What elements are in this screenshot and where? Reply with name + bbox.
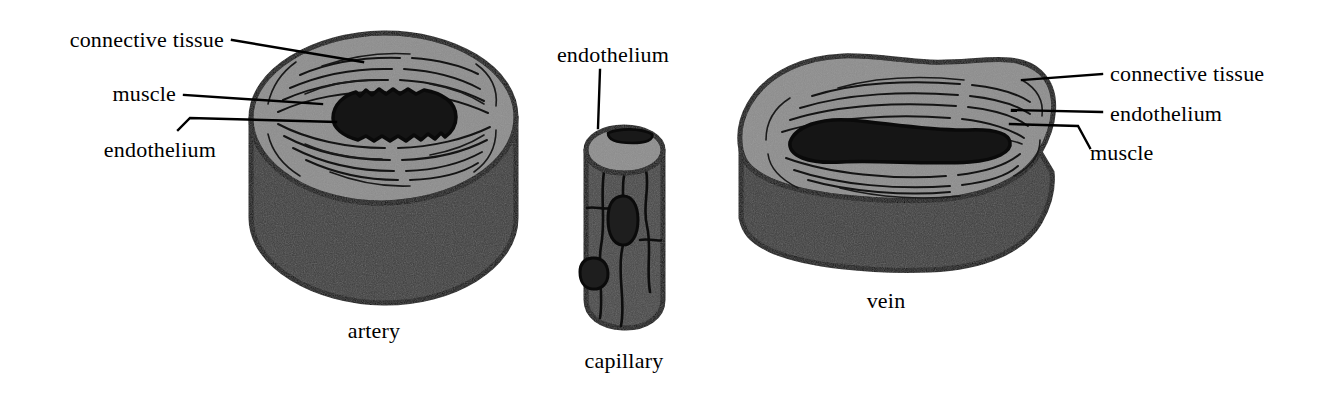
capillary-rim-nucleus [608,129,652,143]
capillary-figure: capillary [580,127,663,373]
vein-muscle-label: muscle [1090,140,1154,165]
artery-connective-tissue-label: connective tissue [70,27,224,52]
artery-muscle-label: muscle [112,81,176,106]
vein-connective-tissue-label: connective tissue [1110,61,1264,86]
artery-endothelium-label: endothelium [104,137,216,162]
artery-figure: artery [251,33,516,343]
vein-figure: vein [740,56,1054,313]
capillary-endothelium-leader [598,70,600,128]
artery-caption: artery [348,318,401,343]
capillary-caption: capillary [585,348,664,373]
artery-lumen [333,89,456,141]
vein-endothelium-label: endothelium [1110,101,1222,126]
blood-vessel-diagram: artery connective tissue muscle endothel… [0,0,1322,393]
capillary-endothelium-label: endothelium [557,42,669,67]
vessel-illustration-svg: artery connective tissue muscle endothel… [0,0,1322,393]
vein-caption: vein [867,288,906,313]
